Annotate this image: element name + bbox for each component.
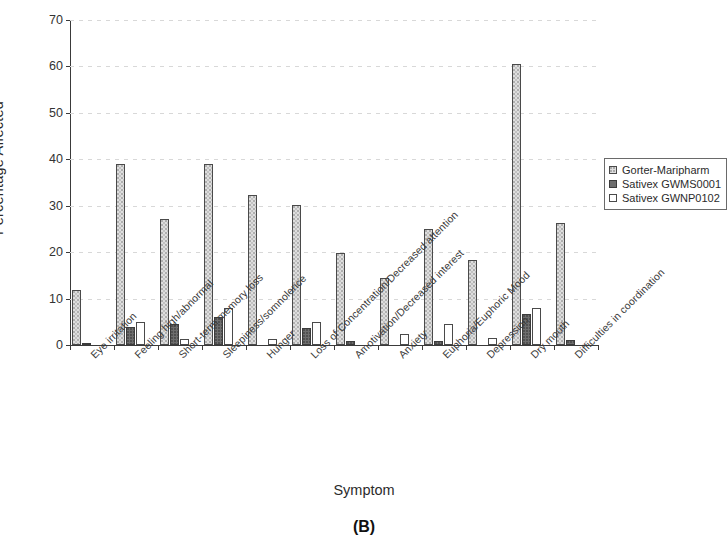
legend-item[interactable]: Gorter-Maripharm: [609, 163, 721, 177]
bar: [82, 343, 91, 345]
y-axis-title: Percentage Affected: [0, 101, 6, 235]
x-tick-mark: [378, 345, 379, 350]
panel-caption: (B): [0, 518, 728, 536]
y-tick-mark: [66, 66, 70, 67]
legend-label: Sativex GWNP0102: [622, 193, 720, 204]
bar: [302, 328, 311, 345]
x-tick-mark: [422, 345, 423, 350]
x-tick-mark: [202, 345, 203, 350]
x-axis-title: Symptom: [0, 482, 728, 498]
plot-area: 010203040506070: [70, 20, 598, 345]
y-tick-mark: [66, 113, 70, 114]
bar: [72, 290, 81, 345]
y-tick-label: 50: [49, 107, 63, 120]
bar: [434, 341, 443, 345]
y-tick-label: 70: [49, 14, 63, 27]
x-tick-mark: [598, 345, 599, 350]
x-tick-mark: [290, 345, 291, 350]
y-tick-label: 60: [49, 60, 63, 73]
y-tick-label: 20: [49, 246, 63, 259]
y-tick-mark: [66, 252, 70, 253]
x-tick-mark: [114, 345, 115, 350]
y-tick-mark: [66, 159, 70, 160]
legend-item[interactable]: Sativex GWMS0001: [609, 177, 721, 191]
y-tick-mark: [66, 206, 70, 207]
y-tick-label: 0: [56, 339, 63, 352]
y-tick-label: 40: [49, 153, 63, 166]
x-tick-mark: [158, 345, 159, 350]
chart-figure: Percentage Affected 010203040506070 Gort…: [0, 0, 728, 557]
x-tick-mark: [466, 345, 467, 350]
x-tick-mark: [246, 345, 247, 350]
x-tick-mark: [70, 345, 71, 350]
y-tick-mark: [66, 20, 70, 21]
y-tick-mark: [66, 299, 70, 300]
legend-item[interactable]: Sativex GWNP0102: [609, 191, 721, 205]
chart-legend: Gorter-Maripharm Sativex GWMS0001 Sative…: [604, 158, 727, 210]
y-gridline: [70, 20, 598, 21]
legend-swatch-icon: [609, 180, 617, 188]
bar: [346, 341, 355, 345]
legend-label: Gorter-Maripharm: [622, 165, 709, 176]
legend-swatch-icon: [609, 166, 617, 174]
y-tick-label: 30: [49, 199, 63, 212]
bar: [566, 340, 575, 345]
x-tick-mark: [334, 345, 335, 350]
bar: [512, 64, 521, 345]
x-tick-mark: [510, 345, 511, 350]
x-tick-mark: [554, 345, 555, 350]
legend-swatch-icon: [609, 194, 617, 202]
legend-label: Sativex GWMS0001: [622, 179, 721, 190]
y-tick-label: 10: [49, 292, 63, 305]
